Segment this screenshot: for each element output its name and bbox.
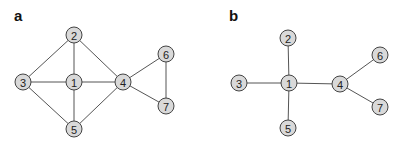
node-4: 4 (115, 74, 131, 90)
node-3: 3 (15, 74, 31, 90)
node-1: 1 (66, 74, 82, 90)
node-2: 2 (66, 27, 82, 43)
edge-2-3 (23, 35, 74, 82)
edge-4-5 (74, 82, 123, 129)
node-1: 1 (281, 75, 297, 91)
node-label: 5 (285, 123, 291, 135)
node-label: 2 (71, 30, 77, 42)
node-6: 6 (158, 46, 174, 62)
node-label: 2 (285, 33, 291, 45)
node-label: 6 (163, 49, 169, 61)
node-label: 6 (377, 50, 383, 62)
edge-3-5 (23, 82, 74, 129)
node-label: 5 (71, 124, 77, 136)
panel-b-label: b (229, 7, 238, 24)
graph-figure: a 1234567 b 1234567 (0, 0, 403, 146)
node-label: 1 (286, 78, 292, 90)
node-label: 4 (120, 77, 126, 89)
node-label: 4 (337, 79, 343, 91)
node-label: 3 (236, 78, 242, 90)
node-5: 5 (280, 120, 296, 136)
node-label: 1 (71, 77, 77, 89)
node-3: 3 (231, 75, 247, 91)
panel-a-graph: a 1234567 (14, 7, 174, 137)
panel-a-edges (23, 35, 166, 129)
node-label: 7 (377, 102, 383, 114)
panel-b-edges (239, 38, 380, 128)
node-4: 4 (332, 76, 348, 92)
edge-2-4 (74, 35, 123, 82)
node-6: 6 (372, 47, 388, 63)
node-5: 5 (66, 121, 82, 137)
node-7: 7 (372, 99, 388, 115)
node-label: 7 (163, 101, 169, 113)
panel-b-spanning-tree: b 1234567 (229, 7, 388, 136)
node-2: 2 (280, 30, 296, 46)
node-7: 7 (158, 98, 174, 114)
node-label: 3 (20, 77, 26, 89)
panel-a-label: a (14, 7, 23, 24)
